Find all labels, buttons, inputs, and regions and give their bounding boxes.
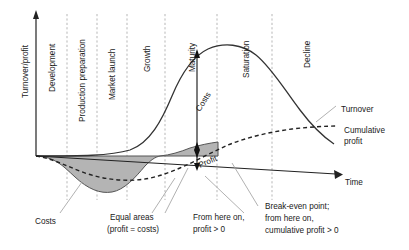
callout-from-here-line2: profit > 0 (193, 225, 226, 234)
diagram-canvas: Turnover/profit Development Production p… (0, 0, 409, 250)
turnover-curve-label: Turnover (341, 105, 374, 114)
product-life-cycle-diagram: Turnover/profit Development Production p… (0, 0, 409, 250)
cumulative-profit-label-line2: profit (344, 137, 363, 146)
leader-costs (60, 182, 82, 213)
leader-turnover (316, 106, 336, 122)
phase-label-maturity: Maturity (188, 42, 197, 72)
callout-equal-areas-line1: Equal areas (110, 213, 154, 222)
cumulative-profit-label-line1: Cumulative (344, 126, 385, 135)
phase-label-production-preparation: Production preparation (78, 39, 87, 122)
callout-equal-areas-line2: (profit = costs) (107, 225, 159, 234)
leader-equal-areas-b (165, 168, 188, 213)
measure-labels: Costs Profit (194, 91, 219, 170)
x-axis-title: Time (345, 178, 363, 187)
callout-break-even-line3: cumulative profit > 0 (265, 226, 339, 235)
callout-break-even-line2: from here on, (265, 214, 314, 223)
phase-label-market-launch: Market launch (108, 48, 117, 100)
curve-labels: Turnover Cumulative profit Time (341, 105, 385, 187)
callout-from-here-line1: From here on, (193, 213, 244, 222)
callout-break-even-line1: Break-even point; (265, 202, 329, 211)
y-axis-arrowhead (33, 10, 39, 19)
phase-label-growth: Growth (143, 45, 152, 72)
callout-texts: Costs Equal areas (profit = costs) From … (35, 202, 339, 235)
leader-break-even (205, 176, 244, 213)
x-axis-arrowhead (334, 170, 343, 179)
leader-equal-areas-a (152, 178, 175, 213)
phase-label-development: Development (48, 43, 57, 92)
costs-shaded-area (36, 156, 160, 192)
phase-label-saturation: Saturation (242, 40, 251, 78)
phase-label-decline: Decline (303, 40, 312, 68)
y-axis-title: Turnover/profit (21, 44, 30, 98)
callout-costs: Costs (35, 217, 56, 226)
